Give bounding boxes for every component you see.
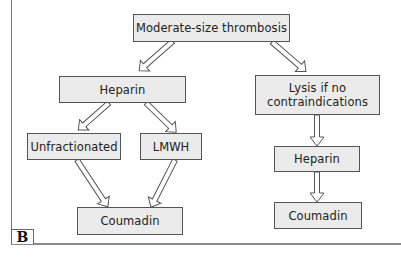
flowchart: Moderate-size thrombosis Heparin Lysis i…	[0, 0, 401, 258]
node-label: LMWH	[153, 140, 190, 154]
node-label: Heparin	[100, 83, 146, 97]
arrow-unfractionated-to-coumadin	[71, 156, 114, 210]
arrow-heparin-to-lmwh	[141, 98, 181, 137]
node-label: Coumadin	[100, 214, 159, 228]
node-label: Unfractionated	[30, 140, 117, 154]
node-moderate-size-thrombosis: Moderate-size thrombosis	[133, 14, 290, 42]
node-heparin-right: Heparin	[274, 146, 360, 172]
node-coumadin-left: Coumadin	[77, 207, 183, 235]
arrow-heparin-to-coumadin-right	[310, 172, 324, 202]
node-unfractionated: Unfractionated	[27, 133, 121, 160]
node-label: Heparin	[294, 152, 340, 166]
arrow-heparin-to-unfractionated	[74, 98, 114, 136]
node-heparin-left: Heparin	[59, 76, 186, 103]
node-label: Moderate-size thrombosis	[136, 21, 287, 35]
node-label-line1: Lysis if no	[289, 81, 346, 95]
node-coumadin-right: Coumadin	[274, 202, 362, 229]
node-lmwh: LMWH	[140, 133, 202, 160]
arrow-root-to-lysis	[267, 37, 310, 77]
node-label: Coumadin	[288, 209, 347, 223]
node-lysis: Lysis if no contraindications	[255, 75, 380, 115]
arrow-lysis-to-heparin-right	[310, 115, 324, 146]
node-label-line2: contraindications	[267, 95, 368, 109]
panel-label: B	[11, 229, 34, 244]
arrow-root-to-heparin-left	[135, 36, 178, 76]
arrow-lmwh-to-coumadin	[145, 157, 182, 211]
